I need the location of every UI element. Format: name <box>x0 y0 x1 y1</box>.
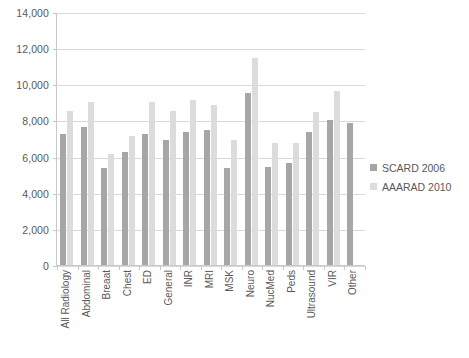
bar <box>67 111 73 266</box>
bar <box>293 143 299 266</box>
y-tick-label: 4,000 <box>0 188 49 200</box>
x-tick-label: Neuro <box>246 270 256 356</box>
x-tick-label: Breaat <box>102 270 112 356</box>
bar <box>211 105 217 266</box>
x-tick-label: VIR <box>328 270 338 356</box>
x-tick-label-text: Other <box>348 270 358 295</box>
bar-group <box>180 13 201 266</box>
bar <box>252 58 258 266</box>
x-tick-label: All Radiology <box>61 270 71 356</box>
bar-group <box>78 13 99 266</box>
y-tick-label: 10,000 <box>0 79 49 91</box>
y-tick-label: 8,000 <box>0 115 49 127</box>
bar <box>101 168 107 266</box>
bar <box>149 102 155 266</box>
bar-group <box>98 13 119 266</box>
legend-item[interactable]: SCARD 2006 <box>370 158 469 177</box>
x-tick-label: Peds <box>287 270 297 356</box>
bar <box>347 123 353 266</box>
gridline <box>57 266 365 267</box>
x-tick-label-text: General <box>164 270 174 306</box>
x-tick-label-text: MSK <box>225 270 235 292</box>
x-axis: All RadiologyAbdominalBreaatChestEDGener… <box>56 268 364 358</box>
bar <box>170 111 176 266</box>
legend-label: SCARD 2006 <box>382 162 445 174</box>
bar <box>88 102 94 266</box>
bar <box>142 134 148 266</box>
bar-group <box>344 13 365 266</box>
bar <box>245 93 251 266</box>
bar <box>163 140 169 267</box>
bar-group <box>201 13 222 266</box>
bar-group <box>242 13 263 266</box>
x-tick-label-text: All Radiology <box>61 270 71 328</box>
x-tick-label-text: INR <box>184 270 194 287</box>
bar-group <box>221 13 242 266</box>
x-tick-label-text: Breaat <box>102 270 112 299</box>
bar <box>224 168 230 266</box>
bar-group <box>119 13 140 266</box>
x-tick-label: Other <box>348 270 358 356</box>
y-tick-label: 14,000 <box>0 7 49 19</box>
bar <box>334 91 340 266</box>
x-tick-label-text: VIR <box>328 270 338 287</box>
x-tick-label: Abdominal <box>82 270 92 356</box>
x-tick-label-text: Neuro <box>246 270 256 297</box>
y-tick-label: 6,000 <box>0 152 49 164</box>
x-tick-label-text: Peds <box>287 270 297 293</box>
bar <box>190 100 196 266</box>
bar <box>129 136 135 266</box>
x-tick-label: MRI <box>205 270 215 356</box>
bar <box>122 152 128 266</box>
x-tick-label: Ultrasound <box>307 270 317 356</box>
x-tick-label: ED <box>143 270 153 356</box>
x-tick-mark <box>365 266 366 270</box>
bar <box>265 167 271 266</box>
legend-swatch-icon <box>370 164 377 171</box>
bar-group <box>262 13 283 266</box>
x-tick-label-text: Chest <box>123 270 133 296</box>
x-tick-label-text: NucMed <box>266 270 276 307</box>
x-tick-label: General <box>164 270 174 356</box>
legend-swatch-icon <box>370 183 377 190</box>
x-tick-label-text: ED <box>143 270 153 284</box>
bar <box>231 140 237 267</box>
y-tick-label: 2,000 <box>0 224 49 236</box>
x-tick-label: Chest <box>123 270 133 356</box>
legend-label: AAARAD 2010 <box>382 181 451 193</box>
x-tick-label-text: Ultrasound <box>307 270 317 318</box>
bar <box>313 112 319 266</box>
bar <box>306 132 312 266</box>
bar <box>108 154 114 266</box>
legend-item[interactable]: AAARAD 2010 <box>370 177 469 196</box>
y-tick-label: 0 <box>0 260 49 272</box>
bar-group <box>283 13 304 266</box>
bar <box>204 130 210 266</box>
bar <box>272 143 278 266</box>
x-tick-label-text: MRI <box>205 270 215 288</box>
bar-group <box>57 13 78 266</box>
bar <box>183 132 189 266</box>
y-tick-label: 12,000 <box>0 43 49 55</box>
bar <box>327 120 333 266</box>
bar-group <box>160 13 181 266</box>
bar-group <box>324 13 345 266</box>
bar-group <box>303 13 324 266</box>
bar <box>60 134 66 266</box>
x-tick-label: MSK <box>225 270 235 356</box>
y-axis: 02,0004,0006,0008,00010,00012,00014,000 <box>0 7 49 266</box>
x-tick-label: INR <box>184 270 194 356</box>
axis-baseline <box>57 265 365 266</box>
chart-legend: SCARD 2006AAARAD 2010 <box>370 158 469 196</box>
bar-group <box>139 13 160 266</box>
bar-chart: 02,0004,0006,0008,00010,00012,00014,000 … <box>0 0 469 358</box>
bar <box>286 163 292 266</box>
bars-layer <box>57 13 365 266</box>
bar <box>81 127 87 266</box>
x-tick-label-text: Abdominal <box>82 270 92 317</box>
plot-area <box>56 13 364 266</box>
x-tick-label: NucMed <box>266 270 276 356</box>
